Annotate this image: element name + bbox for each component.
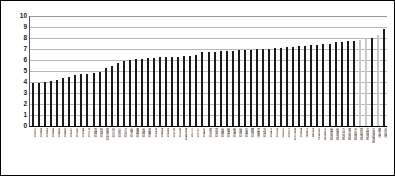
bar: [50, 81, 52, 126]
bar: [165, 57, 167, 126]
bar: [316, 45, 318, 126]
y-tick-label: 5: [23, 68, 27, 75]
bar: [38, 83, 40, 126]
bar: [280, 48, 282, 126]
bar: [195, 55, 197, 127]
x-tick-label: 合計値: [381, 128, 387, 172]
bar: [68, 77, 70, 127]
x-axis-labels: 沖縄県鳥取県高知県島根県徳島県佐賀県山梨県福井県富山県香川県宮崎県秋田県和歌山県…: [29, 128, 387, 174]
y-tick-label: 3: [23, 90, 27, 97]
bar: [147, 58, 149, 126]
bar: [99, 72, 101, 126]
bar: [322, 44, 324, 127]
bar: [141, 59, 143, 126]
bar: [359, 40, 361, 126]
bar: [353, 41, 355, 126]
bar: [250, 50, 252, 126]
bar: [177, 57, 179, 126]
bar: [286, 47, 288, 126]
bars-series: [30, 16, 387, 126]
bar: [244, 50, 246, 126]
bar: [232, 51, 234, 126]
bar: [226, 51, 228, 126]
bar: [347, 41, 349, 126]
bar: [86, 74, 88, 126]
y-tick-label: 4: [23, 79, 27, 86]
bar: [262, 49, 264, 126]
bar: [32, 83, 34, 126]
y-tick-label: 10: [20, 13, 27, 20]
y-tick-label: 7: [23, 46, 27, 53]
bar: [201, 52, 203, 126]
bar: [171, 57, 173, 126]
bar: [129, 60, 131, 126]
bar: [80, 74, 82, 126]
bar: [214, 52, 216, 126]
bar: [310, 45, 312, 126]
bar: [105, 68, 107, 126]
bar: [183, 56, 185, 126]
bar-chart-figure: 109876543210 沖縄県鳥取県高知県島根県徳島県佐賀県山梨県福井県富山県…: [0, 0, 395, 176]
y-tick-label: 0: [23, 123, 27, 130]
bar: [298, 46, 300, 126]
bar: [256, 49, 258, 126]
bar: [208, 52, 210, 126]
plot-area: 109876543210: [29, 16, 387, 127]
bar: [268, 49, 270, 126]
bar: [93, 73, 95, 126]
y-tick-label: 6: [23, 57, 27, 64]
y-tick-label: 9: [23, 24, 27, 31]
bar: [238, 50, 240, 126]
bar: [111, 66, 113, 127]
bar: [62, 78, 64, 126]
bar: [123, 61, 125, 126]
bar: [44, 82, 46, 126]
bar: [365, 39, 367, 126]
bar: [383, 29, 385, 126]
bar: [335, 42, 337, 126]
bar: [117, 63, 119, 126]
bar: [377, 35, 379, 126]
bar: [159, 57, 161, 126]
y-tick-label: 1: [23, 112, 27, 119]
bar: [304, 46, 306, 126]
bar: [371, 38, 373, 126]
bar: [135, 59, 137, 126]
bar: [220, 51, 222, 126]
bar: [341, 42, 343, 126]
bar: [189, 56, 191, 126]
bar: [74, 75, 76, 126]
bar: [292, 47, 294, 126]
bar: [153, 58, 155, 126]
bar: [274, 48, 276, 126]
bar: [329, 44, 331, 127]
y-tick-label: 8: [23, 35, 27, 42]
bar: [56, 80, 58, 126]
y-tick-label: 2: [23, 101, 27, 108]
